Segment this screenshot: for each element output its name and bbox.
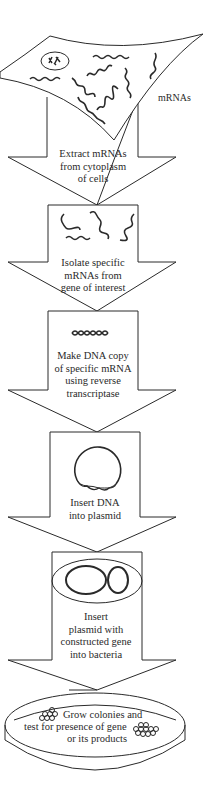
step-1-label: Extract mRNAs from cytoplasm of cells: [48, 148, 138, 186]
step-2-label: Isolate specific mRNAs from gene of inte…: [48, 257, 138, 295]
mrnas-label: mRNAs: [158, 92, 191, 103]
final-step-line-1: Grow colonies and: [63, 709, 142, 722]
cell-illustration: [0, 34, 203, 140]
final-step-line-3: or its products: [67, 733, 127, 746]
step-5-label: Insert plasmid with constructed gene int…: [50, 611, 142, 661]
step-4-label: Insert DNA into plasmid: [50, 497, 140, 522]
arrow-step-4: [8, 432, 176, 552]
step-3-label: Make DNA copy of specific mRNA using rev…: [46, 350, 140, 400]
final-step-line-2: test for presence of gene: [24, 721, 127, 734]
flow-diagram: [0, 0, 212, 800]
